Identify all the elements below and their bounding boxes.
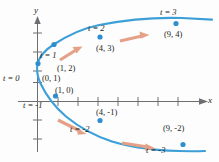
parametric-curve-figure: y x t = 3 (9, 4) t = 2 (4, 3) t = 1 (1, … [0,0,219,162]
label-t-1: t = 1 [40,51,57,60]
y-axis-label: y [34,6,38,15]
label-t-0: t = 0 [3,74,20,83]
label-t-minus-3: t = -3 [146,146,165,155]
label-t-2: t = 2 [88,24,105,33]
arrow-upper-2-shaft [120,36,142,41]
arrow-upper-1-shaft [60,50,76,60]
label-t-minus-2: t = -2 [70,125,89,134]
point-t-minus-2 [97,118,102,123]
point-t-minus-3 [180,142,185,147]
point-t-1 [51,42,56,47]
label-point-1-0: (1, 0) [55,86,73,95]
label-point-9-minus-2: (9, -2) [163,124,184,133]
label-point-4-3: (4, 3) [96,44,114,53]
plot-canvas [0,0,219,162]
arrowhead-upper-2 [140,32,150,39]
label-point-9-4: (9, 4) [164,30,182,39]
x-axis-label: x [208,96,212,105]
label-point-4-minus-1: (4, -1) [96,108,117,117]
point-t-0 [35,61,40,66]
curve-lower-branch [37,64,205,152]
y-axis-arrowhead [34,16,40,24]
label-point-0-1: (0, 1) [42,74,60,83]
x-axis-arrowhead [199,98,208,105]
arrow-lower-2-shaft [122,143,148,147]
point-t-3 [173,21,178,26]
label-t-3: t = 3 [160,8,177,17]
label-t-minus-1: t = -1 [23,101,42,110]
label-point-1-2: (1, 2) [57,64,75,73]
point-t-2 [97,34,102,39]
